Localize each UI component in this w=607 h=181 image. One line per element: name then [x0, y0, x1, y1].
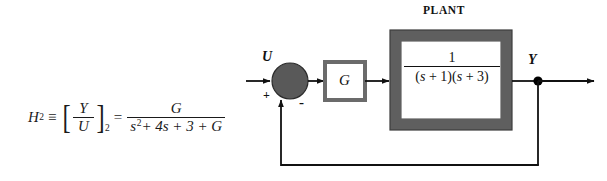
block-diagram-figure: PLANT U Y + - G 1 (s + 1)(s + 3) H2 ≡ [ … — [0, 0, 607, 181]
diagram-canvas — [0, 0, 607, 181]
summing-junction — [272, 63, 308, 99]
controller-block-inner-edge — [329, 66, 362, 97]
plant-block-inner — [402, 42, 500, 118]
